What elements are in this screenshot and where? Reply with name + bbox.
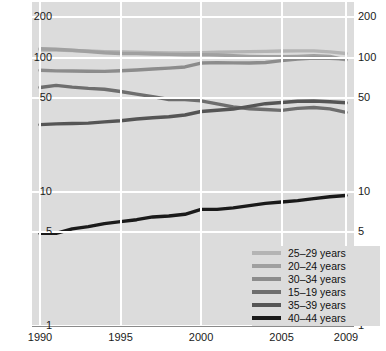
legend-label: 25–29 years bbox=[288, 247, 346, 259]
y-tick-label-left: 200 bbox=[34, 11, 52, 22]
legend-label: 35–39 years bbox=[288, 299, 346, 311]
legend-item[interactable]: 35–39 years bbox=[252, 298, 380, 311]
y-tick-label-right: 50 bbox=[358, 92, 370, 103]
x-tick-label: 2000 bbox=[189, 332, 213, 343]
legend-item[interactable]: 20–24 years bbox=[252, 259, 380, 272]
series-line bbox=[40, 195, 346, 233]
legend-swatch bbox=[252, 290, 281, 294]
legend-label: 15–19 years bbox=[288, 286, 346, 298]
top-clipped-strip bbox=[0, 0, 386, 2]
legend-item[interactable]: 40–44 years bbox=[252, 311, 380, 324]
gridline-horizontal bbox=[32, 231, 354, 233]
y-tick-label-right: 5 bbox=[358, 226, 364, 237]
gridline-horizontal bbox=[32, 57, 354, 59]
legend-swatch bbox=[252, 251, 281, 255]
chart-figure: 200100501051 200100501051 19901995200020… bbox=[0, 0, 386, 351]
legend-item[interactable]: 30–34 years bbox=[252, 272, 380, 285]
legend-swatch bbox=[252, 277, 281, 281]
gridline-vertical bbox=[200, 2, 202, 326]
x-tick-label: 2005 bbox=[269, 332, 293, 343]
x-axis-line bbox=[32, 326, 354, 327]
legend-item[interactable]: 25–29 years bbox=[252, 246, 380, 259]
x-tick-label: 2009 bbox=[334, 332, 358, 343]
gridline-horizontal bbox=[32, 191, 354, 193]
legend-item[interactable]: 15–19 years bbox=[252, 285, 380, 298]
legend-label: 40–44 years bbox=[288, 312, 346, 324]
gridline-vertical bbox=[120, 2, 122, 326]
y-tick-label-left: 5 bbox=[46, 226, 52, 237]
x-tick-label: 1995 bbox=[108, 332, 132, 343]
y-tick-label-left: 1 bbox=[46, 320, 52, 331]
y-tick-label-right: 200 bbox=[358, 11, 376, 22]
y-tick-label-right: 10 bbox=[358, 186, 370, 197]
legend-swatch bbox=[252, 264, 281, 268]
legend-label: 30–34 years bbox=[288, 273, 346, 285]
y-tick-label-left: 10 bbox=[40, 186, 52, 197]
y-tick-label-left: 100 bbox=[34, 52, 52, 63]
y-tick-label-left: 50 bbox=[40, 92, 52, 103]
chart-legend: 25–29 years20–24 years30–34 years15–19 y… bbox=[252, 246, 380, 326]
gridline-horizontal bbox=[32, 16, 354, 18]
series-line bbox=[40, 58, 346, 71]
legend-label: 20–24 years bbox=[288, 260, 346, 272]
legend-swatch bbox=[252, 316, 281, 320]
legend-swatch bbox=[252, 303, 281, 307]
x-tick-label: 1990 bbox=[28, 332, 52, 343]
y-tick-label-right: 100 bbox=[358, 52, 376, 63]
gridline-horizontal bbox=[32, 97, 354, 99]
series-line bbox=[40, 101, 346, 125]
